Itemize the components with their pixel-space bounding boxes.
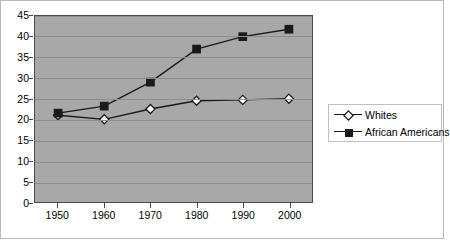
y-axis-tick-mark xyxy=(29,57,33,58)
gridline xyxy=(35,183,312,184)
x-axis-tick-label: 1960 xyxy=(81,209,127,221)
y-axis-tick-mark xyxy=(29,36,33,37)
series-line-african-americans xyxy=(58,29,289,113)
x-axis-tick-label: 2000 xyxy=(267,209,313,221)
y-axis-tick-label: 30 xyxy=(5,73,29,83)
y-axis-tick-label: 15 xyxy=(5,135,29,145)
y-axis-tick-mark xyxy=(29,140,33,141)
data-point-african-americans-1980 xyxy=(192,45,201,54)
gridline xyxy=(35,16,312,17)
y-axis: 051015202530354045 xyxy=(3,15,29,203)
x-axis-tick-label: 1990 xyxy=(220,209,266,221)
y-axis-tick-mark xyxy=(29,203,33,204)
gridline xyxy=(35,78,312,79)
gridline xyxy=(35,99,312,100)
x-axis-tick-label: 1980 xyxy=(174,209,220,221)
data-point-african-americans-2000 xyxy=(285,25,294,34)
y-axis-tick-label: 0 xyxy=(5,198,29,208)
x-axis-tick-label: 1970 xyxy=(127,209,173,221)
x-axis-tick-mark xyxy=(290,203,291,208)
legend-item-african-americans: African Americans xyxy=(334,124,450,140)
series-line-whites xyxy=(58,99,289,120)
y-axis-tick-mark xyxy=(29,182,33,183)
data-point-whites-1970 xyxy=(146,104,155,113)
gridline xyxy=(35,141,312,142)
y-axis-tick-mark xyxy=(29,161,33,162)
y-axis-tick-mark xyxy=(29,119,33,120)
y-axis-tick-mark xyxy=(29,99,33,100)
gridline xyxy=(35,120,312,121)
x-axis-tick-mark xyxy=(104,203,105,208)
y-axis-tick-label: 45 xyxy=(5,10,29,20)
legend-label-african-americans: African Americans xyxy=(365,126,450,138)
y-axis-tick-label: 20 xyxy=(5,114,29,124)
y-axis-tick-mark xyxy=(29,15,33,16)
data-point-african-americans-1950 xyxy=(54,109,63,118)
x-axis: 195019601970198019902000 xyxy=(34,209,313,229)
legend-label-whites: Whites xyxy=(365,109,397,121)
legend-marker-filled-square-icon xyxy=(334,126,362,138)
y-axis-tick-label: 25 xyxy=(5,94,29,104)
chart-legend: Whites African Americans xyxy=(328,104,442,142)
x-axis-tick-label: 1950 xyxy=(34,209,80,221)
chart-container: 051015202530354045 195019601970198019902… xyxy=(0,0,444,239)
data-point-african-americans-1960 xyxy=(100,102,109,111)
x-axis-tick-mark xyxy=(57,203,58,208)
gridline xyxy=(35,57,312,58)
y-axis-tick-label: 35 xyxy=(5,52,29,62)
y-axis-tick-label: 10 xyxy=(5,156,29,166)
data-point-whites-1980 xyxy=(192,96,201,105)
legend-marker-open-diamond-icon xyxy=(334,109,362,121)
gridline xyxy=(35,162,312,163)
y-axis-tick-label: 5 xyxy=(5,177,29,187)
series-layer xyxy=(35,16,312,202)
plot-area xyxy=(34,15,313,203)
x-axis-tick-mark xyxy=(150,203,151,208)
gridline xyxy=(35,36,312,37)
x-axis-tick-mark xyxy=(197,203,198,208)
x-axis-tick-mark xyxy=(243,203,244,208)
y-axis-tick-mark xyxy=(29,78,33,79)
y-axis-tick-label: 40 xyxy=(5,31,29,41)
legend-item-whites: Whites xyxy=(334,107,397,123)
